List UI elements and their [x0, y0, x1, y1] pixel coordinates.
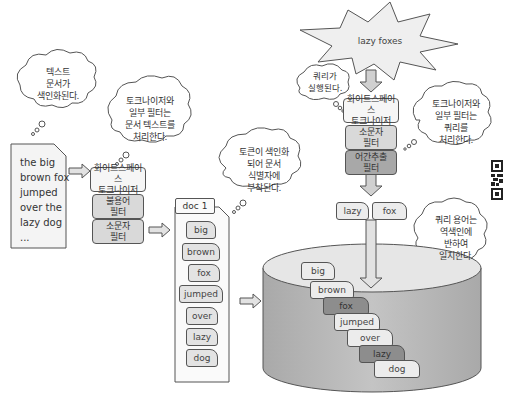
- doc-token-jumped: jumped: [179, 285, 223, 303]
- doc-card-title: doc 1: [175, 198, 215, 214]
- doc-token-fox: fox: [188, 264, 220, 282]
- cloud-text-indexed: 텍스트 문서가 색인화된다.: [26, 66, 90, 102]
- whitespace-tokenizer-box: 화이트스페이스 토크나이저: [90, 167, 146, 192]
- arrow-down-icon: [360, 70, 382, 92]
- doc-token-big: big: [186, 221, 216, 239]
- stopword-filter-box: 불용어 필터: [92, 194, 144, 219]
- query-lowercase-filter-box: 소문자 필터: [345, 125, 397, 150]
- cloud-tokenizer-query: 토크나이저와 일부 필터는 쿼리를 처리한다.: [418, 98, 494, 146]
- doc-token-over: over: [186, 307, 218, 325]
- cloud-tokenizer-doc: 토크나이저와 일부 필터는 문서 텍스트를 처리한다.: [112, 95, 188, 143]
- cloud-query-executed: 쿼리가 실행된다.: [304, 70, 346, 94]
- doc-token-lazy: lazy: [186, 328, 218, 346]
- index-token-big: big: [301, 262, 335, 280]
- diagram-canvas: [0, 0, 506, 394]
- doc-token-brown: brown: [182, 243, 220, 261]
- arrow-right-icon: [69, 164, 90, 178]
- query-whitespace-tokenizer-box: 화이트스페이스 토크나이저: [343, 98, 399, 123]
- document-text: the big brown fox jumped over the lazy d…: [20, 155, 69, 245]
- arrow-down-icon: [360, 174, 382, 196]
- arrow-right-icon: [240, 294, 261, 308]
- cloud-tokens-indexed: 토큰이 색인화 되어 문서 식별자에 부착된다.: [228, 146, 300, 194]
- cloud-query-match: 쿼리 용어는 역색인에 반하여 일치한다.: [420, 214, 492, 262]
- qr-code-icon: [491, 160, 503, 200]
- query-term-lazy: lazy: [336, 202, 369, 220]
- query-stemmer-filter-box: 어간추출 필터: [345, 150, 397, 175]
- arrow-right-icon: [149, 223, 170, 237]
- query-term-fox: fox: [372, 202, 407, 220]
- query-text: lazy foxes: [350, 36, 410, 46]
- doc-token-dog: dog: [186, 349, 218, 367]
- index-token-dog: dog: [374, 360, 420, 378]
- lowercase-filter-box: 소문자 필터: [92, 219, 144, 244]
